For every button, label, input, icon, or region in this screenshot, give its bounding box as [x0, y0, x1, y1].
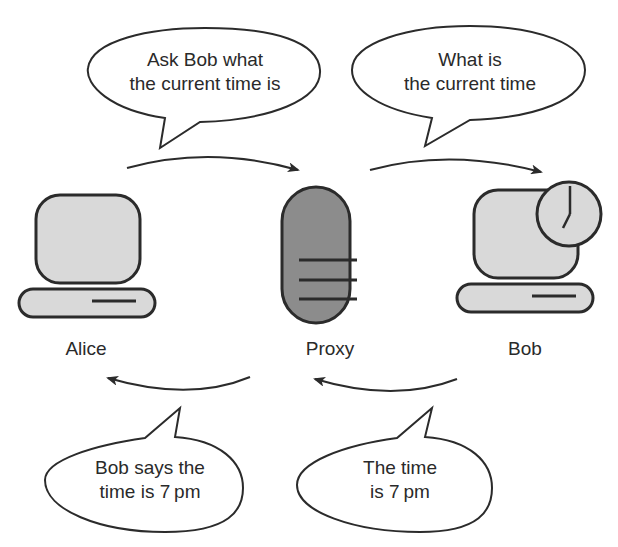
bubble-line: The time [315, 456, 485, 480]
bubble-text-alice-to-proxy: Ask Bob what the current time is [100, 48, 310, 96]
bubble-line: time is 7 pm [65, 480, 235, 504]
bubble-line: the current time [370, 72, 570, 96]
proxy-label: Proxy [280, 338, 380, 360]
alice-label: Alice [36, 338, 136, 360]
bubble-text-proxy-to-alice: Bob says the time is 7 pm [65, 456, 235, 504]
bubble-line: Ask Bob what [100, 48, 310, 72]
alice-computer-icon [19, 195, 155, 317]
bubble-line: What is [370, 48, 570, 72]
arrow-proxy-to-bob [370, 159, 541, 172]
bubble-line: is 7 pm [315, 480, 485, 504]
bubble-line: the current time is [100, 72, 310, 96]
arrow-bob-to-proxy [315, 379, 457, 391]
proxy-server-icon [282, 187, 357, 323]
bubble-line: Bob says the [65, 456, 235, 480]
clock-icon [537, 182, 601, 246]
bubble-text-proxy-to-bob: What is the current time [370, 48, 570, 96]
bubble-text-bob-to-proxy: The time is 7 pm [315, 456, 485, 504]
arrow-proxy-to-alice [108, 377, 250, 390]
arrow-alice-to-proxy [127, 157, 298, 170]
bob-label: Bob [475, 338, 575, 360]
